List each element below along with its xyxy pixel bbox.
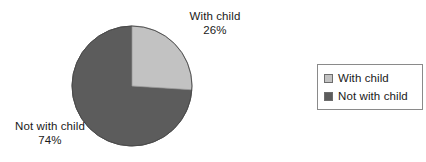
with-child-callout: With child 26% [160, 9, 270, 37]
pie-chart-figure: With child 26% Not with child 74% With c… [0, 0, 426, 162]
with-child-callout-label: With child [160, 9, 270, 23]
legend-item-with-child[interactable]: With child [324, 70, 422, 87]
chart-legend: With child Not with child [317, 64, 423, 110]
legend-label-with-child: With child [338, 72, 389, 85]
not-with-child-callout-value: 74% [0, 133, 100, 147]
not-with-child-callout: Not with child 74% [0, 119, 100, 147]
legend-item-not-with-child[interactable]: Not with child [324, 88, 422, 105]
legend-swatch-with-child-icon [324, 74, 333, 83]
legend-swatch-not-with-child-icon [324, 92, 333, 101]
not-with-child-callout-label: Not with child [0, 119, 100, 133]
with-child-callout-value: 26% [160, 23, 270, 37]
legend-label-not-with-child: Not with child [338, 90, 408, 103]
